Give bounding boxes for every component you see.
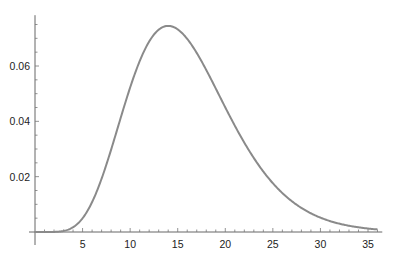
y-tick-label: 0.04 <box>10 115 31 127</box>
x-tick-label: 25 <box>267 238 279 250</box>
y-tick-label: 0.02 <box>10 171 31 183</box>
pdf-curve <box>35 26 378 232</box>
x-tick-label: 10 <box>124 238 136 250</box>
axes <box>29 15 382 245</box>
chart: 51015202530350.020.040.06 <box>0 0 393 257</box>
y-tick-label: 0.06 <box>10 60 31 72</box>
ticks <box>35 25 378 233</box>
x-tick-label: 5 <box>80 238 86 250</box>
x-tick-label: 20 <box>219 238 231 250</box>
x-tick-label: 15 <box>172 238 184 250</box>
x-tick-label: 35 <box>362 238 374 250</box>
tick-labels: 51015202530350.020.040.06 <box>10 60 374 250</box>
x-tick-label: 30 <box>315 238 327 250</box>
